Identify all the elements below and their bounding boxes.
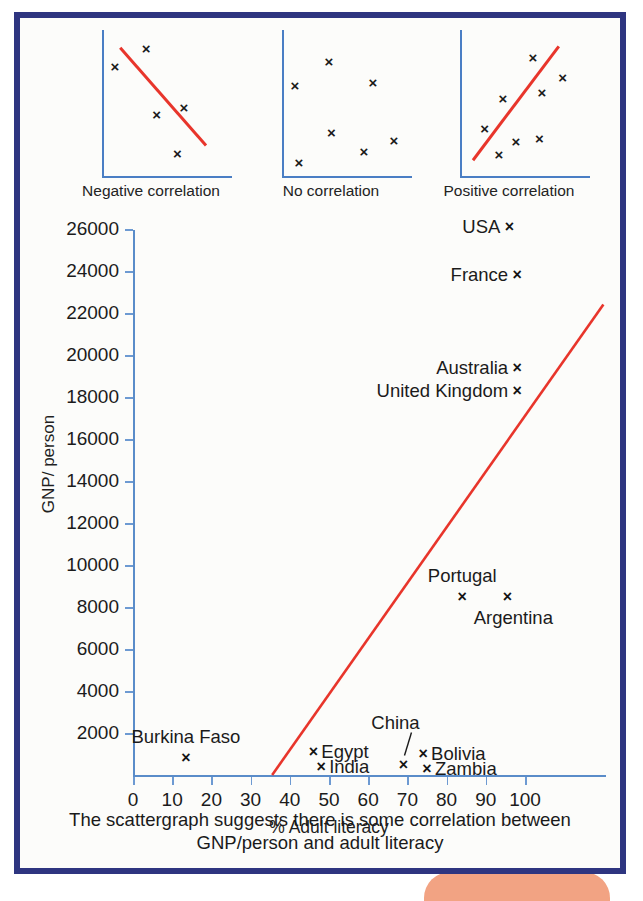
y-tick-mark — [125, 523, 133, 525]
x-tick-mark — [407, 777, 409, 785]
y-tick-mark — [125, 355, 133, 357]
y-tick-label: 14000 — [35, 470, 119, 492]
mini-chart-3: ××××××××Positive correlation — [420, 30, 598, 205]
mini-data-point: × — [495, 147, 504, 162]
data-point-france: × — [512, 267, 521, 283]
mini-chart-caption: Negative correlation — [62, 182, 240, 200]
y-tick-mark — [125, 229, 133, 231]
mini-data-point: × — [558, 70, 567, 85]
mini-data-point: × — [389, 132, 398, 147]
y-tick-label: 2000 — [35, 722, 119, 744]
y-tick-label: 10000 — [35, 554, 119, 576]
figure-caption: The scattergraph suggests there is some … — [20, 808, 620, 854]
mini-chart-plot-area: ×××××××× — [460, 30, 590, 178]
data-label-zambia: Zambia — [435, 759, 497, 778]
x-tick-mark — [329, 777, 331, 785]
mini-chart-caption: No correlation — [242, 182, 420, 200]
y-tick-label: 8000 — [35, 596, 119, 618]
figure-frame: ×××××Negative correlation×××××××No corre… — [14, 12, 626, 874]
mini-data-point: × — [291, 77, 300, 92]
x-tick-mark — [211, 777, 213, 785]
caption-line-1: The scattergraph suggests there is some … — [44, 808, 596, 831]
x-tick-mark — [133, 777, 135, 785]
data-point-india: × — [316, 759, 325, 775]
y-tick-label: 6000 — [35, 638, 119, 660]
trend-line — [20, 204, 620, 804]
y-tick-label: 4000 — [35, 680, 119, 702]
x-tick-mark — [290, 777, 292, 785]
data-point-united-kingdom: × — [512, 383, 521, 399]
data-label-burkina-faso: Burkina Faso — [131, 728, 240, 747]
y-tick-label: 12000 — [35, 512, 119, 534]
data-label-usa: USA — [462, 218, 500, 237]
leader-line-china — [20, 204, 620, 804]
mini-chart-1: ×××××Negative correlation — [62, 30, 240, 205]
mini-data-point: × — [499, 91, 508, 106]
x-tick-mark — [525, 777, 527, 785]
mini-data-point: × — [480, 120, 489, 135]
y-tick-mark — [125, 691, 133, 693]
data-point-china: × — [399, 757, 408, 773]
data-label-france: France — [451, 266, 509, 285]
mini-x-axis — [282, 176, 412, 178]
mini-data-point: × — [369, 74, 378, 89]
data-label-india: India — [329, 757, 369, 776]
x-tick-mark — [368, 777, 370, 785]
data-label-portugal: Portugal — [428, 566, 497, 585]
mini-data-point: × — [535, 131, 544, 146]
mini-data-point: × — [180, 99, 189, 114]
mini-data-point: × — [295, 154, 304, 169]
mini-chart-caption: Positive correlation — [420, 182, 598, 200]
scattergraph: GNP/ person % Adult literacy 20004000600… — [20, 204, 620, 804]
y-tick-label: 16000 — [35, 428, 119, 450]
correlation-examples-row: ×××××Negative correlation×××××××No corre… — [20, 18, 620, 203]
mini-trend-line — [460, 30, 590, 178]
mini-data-point: × — [512, 134, 521, 149]
mini-y-axis — [282, 30, 284, 178]
x-tick-mark — [172, 777, 174, 785]
y-tick-mark — [125, 565, 133, 567]
y-tick-mark — [125, 481, 133, 483]
mini-data-point: × — [152, 107, 161, 122]
figure-body: ×××××Negative correlation×××××××No corre… — [20, 18, 620, 868]
data-point-portugal: × — [458, 589, 467, 605]
mini-data-point: × — [173, 145, 182, 160]
mini-data-point: × — [327, 125, 336, 140]
y-tick-label: 22000 — [35, 302, 119, 324]
data-point-burkina-faso: × — [181, 750, 190, 766]
y-tick-mark — [125, 271, 133, 273]
caption-line-2: GNP/person and adult literacy — [44, 831, 596, 854]
y-tick-mark — [125, 439, 133, 441]
y-tick-mark — [125, 649, 133, 651]
mini-data-point: × — [324, 54, 333, 69]
mini-chart-2: ×××××××No correlation — [242, 30, 420, 205]
y-tick-label: 24000 — [35, 260, 119, 282]
y-tick-mark — [125, 607, 133, 609]
mini-data-point: × — [538, 85, 547, 100]
data-point-zambia: × — [422, 761, 431, 777]
y-tick-mark — [125, 313, 133, 315]
decorative-blob — [424, 872, 610, 901]
x-tick-mark — [251, 777, 253, 785]
y-tick-label: 20000 — [35, 344, 119, 366]
y-axis-line — [133, 230, 135, 775]
data-point-argentina: × — [503, 589, 512, 605]
mini-data-point: × — [360, 144, 369, 159]
data-label-argentina: Argentina — [474, 608, 553, 627]
figure-page: ×××××Negative correlation×××××××No corre… — [0, 0, 643, 901]
y-tick-label: 18000 — [35, 386, 119, 408]
mini-chart-plot-area: ××××× — [102, 30, 232, 178]
data-label-united-kingdom: United Kingdom — [377, 381, 509, 400]
mini-data-point: × — [142, 40, 151, 55]
y-tick-label: 26000 — [35, 218, 119, 240]
data-point-australia: × — [512, 360, 521, 376]
data-label-australia: Australia — [436, 358, 508, 377]
mini-trend-line — [102, 30, 232, 178]
data-label-china: China — [371, 713, 419, 732]
mini-data-point: × — [528, 49, 537, 64]
data-point-usa: × — [505, 219, 514, 235]
y-tick-mark — [125, 397, 133, 399]
mini-chart-plot-area: ××××××× — [282, 30, 412, 178]
mini-data-point: × — [111, 58, 120, 73]
